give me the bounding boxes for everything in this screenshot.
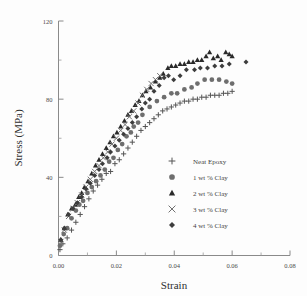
data-point-diamond <box>219 63 224 68</box>
legend-marker-cross <box>169 206 176 213</box>
data-point-cross <box>122 122 127 127</box>
y-tick-label: 0 <box>49 252 52 259</box>
data-point-triangle <box>182 61 187 66</box>
x-tick-label: 0.00 <box>53 262 64 269</box>
data-point-diamond <box>212 63 217 68</box>
data-point-diamond <box>178 73 183 78</box>
y-tick-label: 120 <box>43 18 53 25</box>
data-point-plus <box>151 116 156 121</box>
legend-marker-triangle <box>169 190 175 196</box>
axes-group <box>59 21 291 256</box>
data-point-triangle <box>223 50 228 55</box>
data-point-circle <box>155 99 160 104</box>
x-tick-label: 0.06 <box>226 262 238 269</box>
data-point-diamond <box>117 138 122 143</box>
data-point-diamond <box>227 61 232 66</box>
y-tick-label: 40 <box>46 174 53 181</box>
data-point-triangle <box>104 145 109 150</box>
data-point-plus <box>125 145 130 150</box>
data-point-diamond <box>171 77 176 82</box>
data-point-triangle <box>169 63 174 68</box>
data-point-triangle <box>96 157 101 162</box>
data-point-diamond <box>125 126 130 131</box>
data-point-plus <box>73 220 78 225</box>
data-point-diamond <box>139 106 144 111</box>
data-point-triangle <box>190 59 195 64</box>
data-point-diamond <box>143 101 148 106</box>
data-point-triangle <box>215 53 220 58</box>
data-point-plus <box>134 134 139 139</box>
data-point-plus <box>147 120 152 125</box>
legend-marker-diamond <box>169 222 175 228</box>
chart-canvas: 0.000.020.040.060.0804080120 Neat Epoxy1… <box>0 0 307 296</box>
legend-label: Neat Epoxy <box>193 158 227 166</box>
x-tick-label: 0.02 <box>111 262 122 269</box>
data-point-triangle <box>118 124 123 129</box>
data-point-circle <box>136 120 141 125</box>
data-point-triangle <box>186 59 191 64</box>
stress-strain-chart-figure: 0.000.020.040.060.0804080120 Neat Epoxy1… <box>0 0 307 296</box>
data-point-diamond <box>244 60 249 65</box>
data-point-diamond <box>162 75 167 80</box>
data-point-plus <box>86 196 91 201</box>
x-tick-label: 0.08 <box>284 262 295 269</box>
data-point-circle <box>128 130 133 135</box>
tick-labels-layer: 0.000.020.040.060.0804080120 <box>43 18 296 269</box>
data-point-diamond <box>205 65 210 70</box>
data-point-triangle <box>211 55 216 60</box>
data-point-diamond <box>198 65 203 70</box>
data-point-circle <box>175 91 180 96</box>
data-point-circle <box>162 95 167 100</box>
legend-label: 1 wt % Clay <box>193 174 228 182</box>
legend-label: 3 wt % Clay <box>193 206 228 214</box>
data-point-plus <box>143 124 148 129</box>
data-point-triangle <box>173 63 178 68</box>
data-point-circle <box>107 159 112 164</box>
data-point-plus <box>112 161 117 166</box>
data-point-diamond <box>134 114 139 119</box>
data-point-circle <box>102 167 107 172</box>
data-point-diamond <box>151 89 156 94</box>
legend-label: 2 wt % Clay <box>193 190 228 198</box>
data-point-plus <box>78 212 83 217</box>
data-point-plus <box>156 112 161 117</box>
series-4-wt-clay <box>58 60 248 243</box>
data-point-plus <box>117 157 122 162</box>
data-point-circle <box>195 81 200 86</box>
data-point-diamond <box>157 83 162 88</box>
data-point-circle <box>202 77 207 82</box>
data-point-circle <box>140 112 145 117</box>
data-point-diamond <box>184 67 189 72</box>
legend-label: 4 wt % Clay <box>193 222 228 230</box>
data-point-plus <box>121 151 126 156</box>
y-tick-label: 80 <box>46 96 53 103</box>
data-point-circle <box>120 142 125 147</box>
data-point-circle <box>94 179 99 184</box>
data-point-triangle <box>100 151 105 156</box>
x-axis-title: Strain <box>161 279 188 291</box>
data-point-plus <box>130 140 135 145</box>
data-point-plus <box>65 235 70 240</box>
data-point-circle <box>217 77 222 82</box>
legend-marker-plus <box>169 158 176 165</box>
data-point-circle <box>209 77 214 82</box>
data-point-circle <box>169 91 174 96</box>
data-point-circle <box>69 216 74 221</box>
data-point-circle <box>147 105 152 110</box>
data-point-circle <box>224 79 229 84</box>
data-point-diamond <box>112 144 117 149</box>
data-point-diamond <box>166 73 171 78</box>
data-point-diamond <box>147 97 152 102</box>
data-point-triangle <box>207 50 212 55</box>
data-point-triangle <box>177 61 182 66</box>
data-point-cross <box>118 128 123 133</box>
x-tick-label: 0.04 <box>169 262 181 269</box>
data-point-diamond <box>192 67 197 72</box>
data-point-plus <box>82 204 87 209</box>
data-point-circle <box>111 155 116 160</box>
legend-marker-circle <box>169 174 175 180</box>
data-point-plus <box>69 227 74 232</box>
data-point-circle <box>98 173 103 178</box>
data-point-circle <box>182 87 187 92</box>
y-axis-title: Stress (MPa) <box>12 109 25 166</box>
